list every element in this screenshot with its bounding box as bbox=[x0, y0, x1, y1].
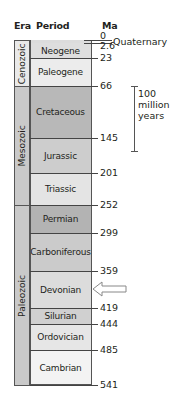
era-paleozoic: Paleozoic bbox=[14, 205, 30, 386]
boundary-line bbox=[30, 308, 98, 309]
period-ordovician: Ordovician bbox=[30, 324, 92, 350]
period-label: Neogene bbox=[41, 46, 80, 56]
era-mesozoic: Mesozoic bbox=[14, 86, 30, 206]
scale-bar-line2: million bbox=[138, 99, 170, 110]
boundary-line bbox=[30, 233, 98, 234]
scale-bar-line3: years bbox=[138, 110, 170, 121]
ma-tick-label: 359 bbox=[100, 266, 118, 276]
period-label: Cretaceous bbox=[36, 107, 85, 117]
period-cretaceous: Cretaceous bbox=[30, 86, 92, 138]
period-triassic: Triassic bbox=[30, 173, 92, 205]
period-label: Cambrian bbox=[39, 363, 81, 373]
ma-tick-label: 252 bbox=[100, 200, 118, 210]
period-devonian: Devonian bbox=[30, 271, 92, 308]
ma-tick-label: 419 bbox=[100, 303, 118, 313]
ma-tick-label: 23 bbox=[100, 53, 112, 63]
era-cenozoic: Cenozoic bbox=[14, 40, 30, 87]
era-label: Cenozoic bbox=[17, 43, 27, 84]
period-label: Triassic bbox=[45, 184, 76, 194]
boundary-line bbox=[30, 324, 98, 325]
era-header: Era bbox=[14, 20, 31, 31]
period-silurian: Silurian bbox=[30, 308, 92, 324]
boundary-line bbox=[30, 138, 98, 139]
period-header: Period bbox=[36, 20, 69, 31]
period-cambrian: Cambrian bbox=[30, 350, 92, 385]
boundary-line bbox=[30, 271, 98, 272]
scale-bar-label: 100 million years bbox=[138, 88, 170, 121]
ma-tick-label: 485 bbox=[100, 345, 118, 355]
scale-bar-cap-top bbox=[131, 86, 138, 87]
period-label: Permian bbox=[43, 214, 78, 224]
scale-bar-line1: 100 bbox=[138, 88, 170, 99]
ma-tick-label: 299 bbox=[100, 228, 118, 238]
ma-tick-label: 444 bbox=[100, 319, 118, 329]
left-arrow-icon bbox=[92, 281, 128, 297]
boundary-line bbox=[30, 58, 98, 59]
scale-bar-line bbox=[134, 86, 135, 151]
ma-tick-label: 145 bbox=[100, 133, 118, 143]
boundary-line bbox=[30, 86, 98, 87]
boundary-line bbox=[30, 205, 98, 206]
period-permian: Permian bbox=[30, 205, 92, 233]
boundary-line bbox=[30, 385, 98, 386]
period-label: Silurian bbox=[44, 311, 76, 321]
period-jurassic: Jurassic bbox=[30, 138, 92, 173]
quaternary-label: Quaternary bbox=[113, 36, 167, 47]
period-label: Devonian bbox=[40, 285, 81, 295]
boundary-line bbox=[30, 350, 98, 351]
period-neogene: Neogene bbox=[30, 43, 92, 58]
ma-tick-label: 541 bbox=[100, 380, 118, 390]
period-label: Carboniferous bbox=[30, 247, 90, 257]
ma-tick-label: 66 bbox=[100, 81, 112, 91]
period-carboniferous: Carboniferous bbox=[30, 233, 92, 271]
period-paleogene: Paleogene bbox=[30, 58, 92, 86]
period-label: Paleogene bbox=[38, 67, 83, 77]
period-label: Jurassic bbox=[44, 151, 77, 161]
era-label: Mesozoic bbox=[17, 125, 27, 166]
period-label: Ordovician bbox=[37, 332, 83, 342]
scale-bar-cap-bottom bbox=[131, 151, 138, 152]
ma-tick-label: 201 bbox=[100, 168, 118, 178]
era-label: Paleozoic bbox=[17, 275, 27, 317]
boundary-line bbox=[30, 173, 98, 174]
